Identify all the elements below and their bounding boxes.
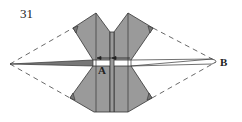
fold-figure — [0, 0, 242, 122]
long-point-right — [131, 59, 216, 66]
long-point-left — [10, 60, 93, 66]
label-point-b: B — [220, 56, 227, 68]
label-point-a: A — [98, 64, 106, 76]
origami-diagram: 31 A B — [0, 0, 242, 122]
step-number: 31 — [20, 6, 33, 22]
